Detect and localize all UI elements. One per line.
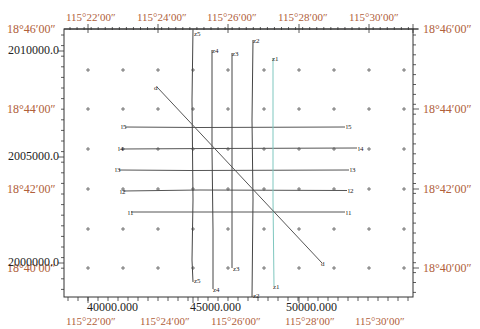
label-l1-end: l1	[346, 208, 351, 219]
label-z2-top: z2	[253, 36, 260, 47]
bottom-axis-projected-label: 50000.000	[286, 302, 337, 313]
survey-line-l3[interactable]	[119, 170, 349, 171]
label-l5-start: l5	[121, 122, 126, 133]
right-axis-label: 18°40′00″	[423, 263, 471, 274]
axis-ticks	[58, 24, 419, 303]
survey-line-diagonal[interactable]	[157, 87, 322, 263]
bottom-axis-degree-label: 115°22′00″	[66, 316, 115, 327]
label-l2-start: l2	[120, 187, 125, 198]
left-axis-projected-label: 2005000.0	[8, 151, 59, 162]
label-l4-end: l4	[358, 144, 363, 155]
survey-line-l4[interactable]	[122, 148, 357, 149]
bottom-axis-degree-label: 115°30′00″	[355, 316, 404, 327]
left-axis-degree-label: 18°44′00″	[7, 104, 55, 115]
grid-marks	[86, 68, 406, 270]
label-z5-top: z5	[194, 29, 201, 40]
top-axis-label: 115°30′00″	[349, 12, 398, 23]
survey-line-z4[interactable]	[212, 50, 213, 289]
survey-line-z5[interactable]	[192, 29, 193, 282]
top-axis-label: 115°28′00″	[278, 12, 327, 23]
right-axis-label: 18°44′00″	[423, 104, 471, 115]
label-z3-top: z3	[232, 49, 239, 60]
label-z3-bottom: z3	[233, 264, 240, 275]
left-axis-degree-label: 18°46′00″	[7, 24, 55, 35]
label-l4-start: l4	[118, 144, 123, 155]
survey-map	[0, 0, 480, 329]
label-z4-top: z4	[212, 46, 219, 57]
horizontal-survey-lines	[119, 127, 357, 212]
label-l5-end: l5	[346, 122, 351, 133]
right-axis-label: 18°46′00″	[423, 24, 471, 35]
left-axis-projected-label: 2000000.0	[8, 257, 59, 268]
left-axis-degree-label: 18°42′00″	[7, 184, 55, 195]
bottom-axis-degree-label: 115°26′00″	[211, 316, 260, 327]
bottom-axis-projected-label: 40000.000	[87, 302, 138, 313]
top-axis-label: 115°24′00″	[137, 12, 186, 23]
top-axis-label: 115°26′00″	[207, 12, 256, 23]
map-frame	[64, 29, 413, 297]
label-diagonal-start: d	[154, 83, 158, 94]
bottom-axis-degree-label: 115°24′00″	[140, 316, 189, 327]
top-axis-label: 115°22′00″	[66, 12, 115, 23]
label-l3-end: l3	[350, 165, 355, 176]
left-axis-projected-label: 2010000.0	[8, 45, 59, 56]
label-l3-start: l3	[115, 165, 120, 176]
label-z1-top: z1	[272, 54, 279, 65]
right-axis-label: 18°42′00″	[423, 184, 471, 195]
survey-line-z1[interactable]	[273, 58, 274, 286]
label-z2-bottom: z2	[253, 291, 260, 302]
label-diagonal-end: d	[321, 259, 325, 270]
survey-line-l5[interactable]	[125, 127, 345, 128]
label-z4-bottom: z4	[213, 285, 220, 296]
label-z5-bottom: z5	[194, 276, 201, 287]
survey-line-z2[interactable]	[252, 40, 253, 297]
bottom-axis-projected-label: 45000.000	[190, 302, 241, 313]
bottom-axis-degree-label: 115°28′00″	[285, 316, 334, 327]
label-z1-bottom: z1	[273, 282, 280, 293]
label-l2-end: l2	[348, 186, 353, 197]
survey-line-l2[interactable]	[123, 190, 347, 191]
vertical-survey-lines	[192, 29, 274, 297]
label-l1-start: l1	[128, 208, 133, 219]
